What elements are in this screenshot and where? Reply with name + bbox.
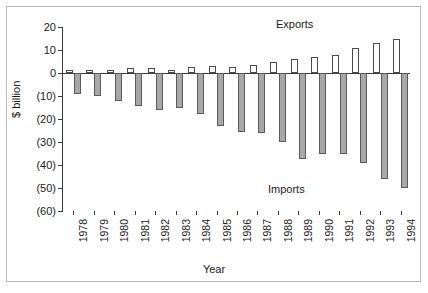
x-tick-label: 1988 xyxy=(283,219,294,242)
x-tick-mark xyxy=(217,211,218,215)
bar-exports xyxy=(332,55,339,73)
y-tick-mark xyxy=(58,27,63,28)
x-tick-label: 1982 xyxy=(160,219,171,242)
bar-exports xyxy=(148,68,155,73)
y-tick-label: 0 xyxy=(50,68,56,79)
x-tick-label: 1983 xyxy=(181,219,192,242)
x-tick-label: 1978 xyxy=(78,219,89,242)
bar-imports xyxy=(74,73,81,94)
x-tick-label: 1980 xyxy=(119,219,130,242)
y-tick-label: (20) xyxy=(36,114,56,125)
bar-exports xyxy=(270,62,277,74)
x-tick-mark xyxy=(237,211,238,215)
x-tick-mark xyxy=(114,211,115,215)
y-tick-label: (30) xyxy=(36,137,56,148)
bar-group xyxy=(270,27,285,211)
bar-exports xyxy=(168,70,175,73)
bar-imports xyxy=(401,73,408,188)
bar-imports xyxy=(176,73,183,108)
bar-exports xyxy=(250,65,257,73)
x-tick-mark xyxy=(257,211,258,215)
bar-imports xyxy=(156,73,163,110)
y-tick-mark xyxy=(58,96,63,97)
bar-imports xyxy=(340,73,347,154)
y-tick-label: 10 xyxy=(44,45,56,56)
bar-imports xyxy=(381,73,388,179)
x-tick-label: 1986 xyxy=(242,219,253,242)
bar-imports xyxy=(217,73,224,126)
y-axis-title: $ billion xyxy=(10,81,22,118)
x-tick-label: 1985 xyxy=(222,219,233,242)
x-axis-title: Year xyxy=(0,263,428,275)
y-tick-label: (60) xyxy=(36,206,56,217)
x-tick-label: 1987 xyxy=(262,219,273,242)
bar-exports xyxy=(127,68,134,73)
bar-group xyxy=(209,27,224,211)
bar-exports xyxy=(311,57,318,73)
bars-layer xyxy=(62,27,410,211)
x-tick-mark xyxy=(155,211,156,215)
bar-group xyxy=(148,27,163,211)
bar-exports xyxy=(66,70,73,73)
bar-group xyxy=(86,27,101,211)
y-tick-label: (10) xyxy=(36,91,56,102)
bar-exports xyxy=(291,59,298,73)
y-tick-mark xyxy=(58,211,63,212)
x-tick-mark xyxy=(319,211,320,215)
bar-imports xyxy=(258,73,265,133)
bar-group xyxy=(168,27,183,211)
x-tick-label: 1993 xyxy=(385,219,396,242)
bar-imports xyxy=(319,73,326,154)
bar-exports xyxy=(373,43,380,73)
plot-area: 20100(10)(20)(30)(40)(50)(60) 1978197919… xyxy=(62,27,410,211)
y-tick-mark xyxy=(58,188,63,189)
x-tick-mark xyxy=(73,211,74,215)
bar-exports xyxy=(188,67,195,73)
bar-exports xyxy=(107,70,114,73)
bar-group xyxy=(127,27,142,211)
bar-imports xyxy=(299,73,306,159)
bar-group xyxy=(373,27,388,211)
bar-group xyxy=(291,27,306,211)
x-tick-label: 1984 xyxy=(201,219,212,242)
x-tick-mark xyxy=(135,211,136,215)
y-tick-mark xyxy=(58,142,63,143)
bar-imports xyxy=(197,73,204,114)
x-tick-mark xyxy=(278,211,279,215)
bar-imports xyxy=(115,73,122,101)
bar-group xyxy=(393,27,408,211)
x-tick-label: 1989 xyxy=(303,219,314,242)
bar-imports xyxy=(94,73,101,96)
bar-group xyxy=(229,27,244,211)
x-tick-label: 1990 xyxy=(324,219,335,242)
bar-group xyxy=(352,27,367,211)
bar-imports xyxy=(279,73,286,142)
bar-exports xyxy=(229,67,236,73)
y-tick-label: (50) xyxy=(36,183,56,194)
x-tick-label: 1994 xyxy=(406,219,417,242)
y-tick-mark xyxy=(58,73,63,74)
x-tick-label: 1991 xyxy=(344,219,355,242)
chart-figure: $ billion Year Exports Imports 20100(10)… xyxy=(0,0,428,293)
x-tick-label: 1979 xyxy=(99,219,110,242)
x-tick-mark xyxy=(360,211,361,215)
x-tick-mark xyxy=(196,211,197,215)
x-tick-mark xyxy=(298,211,299,215)
bar-group xyxy=(66,27,81,211)
bar-exports xyxy=(209,66,216,73)
x-tick-mark xyxy=(176,211,177,215)
bar-imports xyxy=(360,73,367,163)
y-tick-label: 20 xyxy=(44,22,56,33)
bar-group xyxy=(250,27,265,211)
y-tick-mark xyxy=(58,119,63,120)
bar-group xyxy=(311,27,326,211)
x-tick-label: 1981 xyxy=(140,219,151,242)
bar-group xyxy=(188,27,203,211)
y-tick-mark xyxy=(58,165,63,166)
y-tick-mark xyxy=(58,50,63,51)
bar-exports xyxy=(352,48,359,73)
x-tick-mark xyxy=(339,211,340,215)
x-tick-mark xyxy=(94,211,95,215)
bar-imports xyxy=(135,73,142,106)
x-tick-mark xyxy=(380,211,381,215)
